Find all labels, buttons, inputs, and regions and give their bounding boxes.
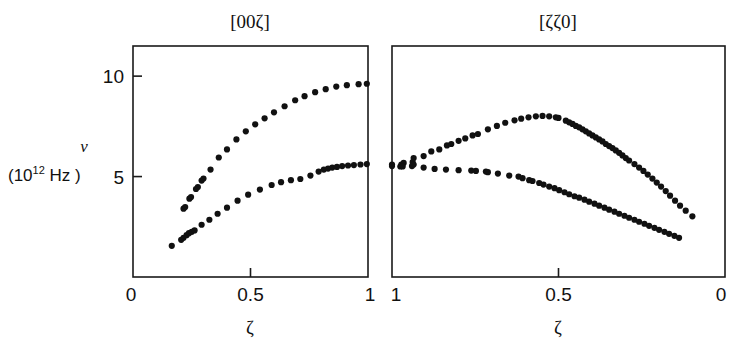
data-point (297, 176, 303, 182)
data-point (411, 155, 417, 161)
data-point (533, 113, 539, 119)
data-point (469, 132, 475, 138)
data-point (215, 211, 221, 217)
data-point (506, 172, 512, 178)
data-point (462, 135, 468, 141)
data-point (245, 192, 251, 198)
phonon-dispersion-figure: [00ζ]51000.51ζ[ζζ0]10.50ζν(1012 Hz ) (0, 0, 743, 344)
plot-frame (392, 46, 725, 277)
figure-root: [00ζ]51000.51ζ[ζζ0]10.50ζν(1012 Hz ) (0, 0, 743, 344)
data-point (411, 161, 417, 167)
data-point (586, 199, 592, 205)
series-lower-branch (389, 161, 682, 241)
data-point (339, 163, 345, 169)
data-point (188, 194, 194, 200)
panel-title: [00ζ] (230, 11, 270, 32)
panel-00zeta: [00ζ]51000.51ζ (103, 11, 375, 338)
data-point (312, 89, 318, 95)
y-axis-unit: (1012 Hz ) (8, 164, 81, 185)
data-point (495, 170, 501, 176)
data-point (307, 172, 313, 178)
x-tick-label: 0 (716, 284, 727, 305)
data-point (262, 115, 268, 121)
data-point (364, 161, 370, 167)
data-point (556, 187, 562, 193)
data-point (224, 205, 230, 211)
panel-title: [ζζ0] (539, 11, 577, 32)
data-point (645, 171, 651, 177)
data-point (540, 182, 546, 188)
data-point (626, 215, 632, 221)
data-point (421, 164, 427, 170)
data-point (389, 163, 395, 169)
data-point (511, 117, 517, 123)
plot-frame (133, 46, 368, 277)
data-point (616, 211, 622, 217)
data-point (502, 120, 508, 126)
data-point (257, 187, 263, 193)
x-tick-label: 1 (391, 284, 402, 305)
data-point (357, 161, 363, 167)
data-point (169, 243, 175, 249)
data-point (432, 166, 438, 172)
data-point (672, 198, 678, 204)
data-point (606, 207, 612, 213)
data-point (182, 204, 188, 210)
data-point (663, 188, 669, 194)
data-point (666, 231, 672, 237)
data-point (323, 86, 329, 92)
data-point (278, 179, 284, 185)
data-point (421, 153, 427, 159)
data-point (200, 175, 206, 181)
data-point (271, 109, 277, 115)
data-point (301, 93, 307, 99)
data-point (351, 162, 357, 168)
data-point (485, 126, 491, 132)
data-point (400, 163, 406, 169)
data-point (243, 128, 249, 134)
data-point (519, 175, 525, 181)
data-point (428, 148, 434, 154)
data-point (443, 166, 449, 172)
data-point (596, 203, 602, 209)
data-point (485, 169, 491, 175)
data-point (234, 198, 240, 204)
y-axis-symbol: ν (80, 137, 88, 156)
data-point (333, 83, 339, 89)
x-axis-label: ζ (554, 317, 562, 338)
data-point (224, 146, 230, 152)
x-axis-label: ζ (246, 317, 254, 338)
data-point (677, 203, 683, 209)
data-point (288, 177, 294, 183)
x-tick-label: 0 (126, 284, 137, 305)
data-point (676, 235, 682, 241)
data-point (334, 164, 340, 170)
data-point (207, 166, 213, 172)
data-point (199, 222, 205, 228)
y-tick-label: 5 (113, 167, 124, 188)
data-point (436, 146, 442, 152)
data-point (473, 168, 479, 174)
data-point (191, 227, 197, 233)
data-point (281, 103, 287, 109)
data-point (475, 131, 481, 137)
data-point (683, 208, 689, 214)
data-point (667, 193, 673, 199)
data-point (364, 81, 370, 87)
data-point (252, 121, 258, 127)
x-tick-label: 0.5 (237, 284, 263, 305)
data-point (344, 82, 350, 88)
data-point (216, 154, 222, 160)
y-tick-label: 10 (103, 66, 124, 87)
x-tick-label: 0.5 (545, 284, 571, 305)
x-tick-label: 1 (365, 284, 376, 305)
series-longitudinal-acoustic-upper-branch (180, 81, 369, 212)
data-point (646, 223, 652, 229)
data-point (546, 184, 552, 190)
data-point (636, 219, 642, 225)
data-point (448, 141, 454, 147)
data-point (195, 184, 201, 190)
data-point (206, 217, 212, 223)
data-point (518, 116, 524, 122)
data-point (456, 138, 462, 144)
